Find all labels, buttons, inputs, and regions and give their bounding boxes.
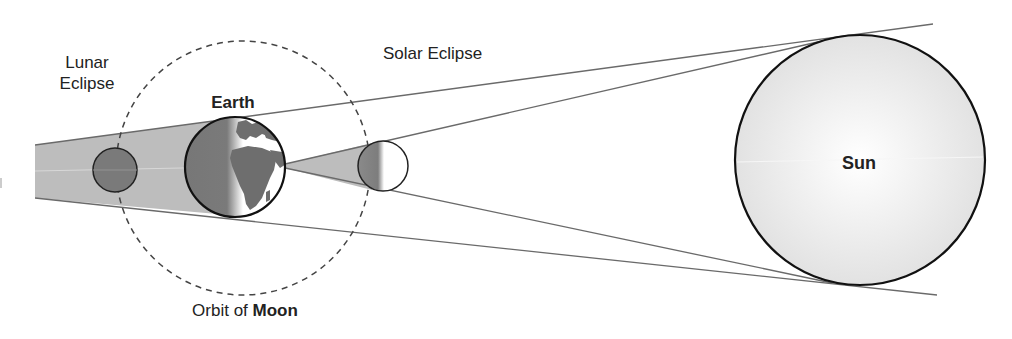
earth-label: Earth [211,93,254,112]
sun-label: Sun [842,153,876,173]
earth [185,117,286,217]
edge-artifact [0,178,2,188]
solar-eclipse-label: Solar Eclipse [383,44,482,63]
eclipse-diagram: Lunar Eclipse Solar Eclipse Earth Orbit … [0,0,1012,339]
lunar-eclipse-label-line2: Eclipse [60,74,115,93]
orbit-label-moon: Moon [253,301,298,320]
orbit-label-prefix: Orbit of [192,301,252,320]
lunar-eclipse-label-line1: Lunar [65,53,109,72]
orbit-label: Orbit of Moon [192,301,298,320]
moon-solar-eclipse [358,141,408,191]
